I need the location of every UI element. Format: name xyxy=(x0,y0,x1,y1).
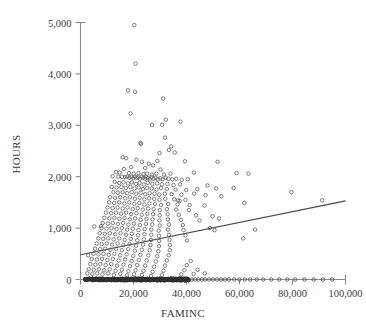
x-tick-label: 100,000 xyxy=(328,288,362,299)
y-tick-label: 3,000 xyxy=(20,120,72,131)
x-axis-title: FAMINC xyxy=(0,307,366,319)
x-tick-label: 80,000 xyxy=(278,288,307,299)
x-tick-label: 0 xyxy=(78,288,83,299)
y-tick-label: 1,000 xyxy=(20,223,72,234)
y-tick-label: 2,000 xyxy=(20,171,72,182)
y-axis-title: HOURS xyxy=(10,124,22,184)
x-tick-label: 40,000 xyxy=(172,288,201,299)
x-tick-label: 20,000 xyxy=(119,288,148,299)
y-tick-label: 4,000 xyxy=(20,68,72,79)
x-tick-label: 60,000 xyxy=(225,288,254,299)
y-tick-label: 5,000 xyxy=(20,17,72,28)
y-tick-label: 0 xyxy=(20,274,72,285)
scatter-plot-figure: 01,0002,0003,0004,0005,000 020,00040,000… xyxy=(0,0,366,330)
